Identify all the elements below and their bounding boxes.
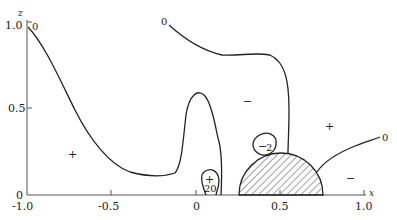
x-tick-neg05: -0.5 <box>98 200 119 213</box>
y-axis-label: z <box>17 8 23 18</box>
sign-left-plus: + <box>68 148 77 161</box>
sign-mid-minus: − <box>243 95 252 108</box>
contour-lines <box>28 25 380 195</box>
sign-right-plus: + <box>325 120 334 133</box>
axes <box>27 20 366 195</box>
sign-loop-minus: − <box>258 140 267 153</box>
sign-loop-plus: + <box>205 173 214 186</box>
x-tick-1: 1.0 <box>355 200 373 213</box>
x-axis-label: x <box>369 188 374 198</box>
sign-right-low-minus: − <box>346 172 355 185</box>
label-zero-topleft: 0 <box>32 21 38 32</box>
y-tick-0: 0 <box>16 189 23 202</box>
label-zero-topmid: 0 <box>161 16 167 27</box>
x-tick-05: 0.5 <box>271 200 289 213</box>
contour-left-zero <box>28 27 222 195</box>
hatched-semicircle-obstacle <box>239 153 323 195</box>
x-tick-0: 0 <box>193 200 200 213</box>
contour-right-zero <box>317 137 380 172</box>
label-zero-right: 0 <box>382 132 388 143</box>
y-tick-1: 1.0 <box>5 19 23 32</box>
contour-diagram: -1.0 -0.5 0 0.5 1.0 x 0 0.5 1.0 z 0 0 0 … <box>0 0 397 220</box>
y-tick-05: 0.5 <box>8 102 26 115</box>
